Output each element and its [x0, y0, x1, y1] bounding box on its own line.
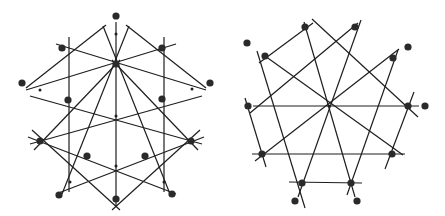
marked-point — [158, 95, 165, 102]
marked-point — [389, 54, 396, 61]
intersection-point — [115, 33, 118, 36]
line-segment — [255, 49, 399, 161]
figure-left — [18, 12, 213, 210]
marked-point — [243, 39, 250, 46]
marked-point — [168, 190, 175, 197]
marked-point — [347, 179, 354, 186]
marked-point — [83, 152, 90, 159]
marked-point — [258, 150, 265, 157]
marked-point — [64, 96, 71, 103]
marked-point — [261, 52, 268, 59]
figure-right — [243, 19, 428, 208]
intersection-point — [115, 115, 118, 118]
line-segment — [112, 60, 198, 150]
diagram-canvas — [0, 0, 445, 216]
marked-point — [351, 23, 358, 30]
marked-point — [404, 102, 411, 109]
marked-point — [141, 152, 148, 159]
line-segment — [34, 60, 120, 150]
marked-point — [187, 137, 194, 144]
line-segment — [56, 44, 206, 90]
marked-point — [421, 102, 428, 109]
marked-point — [112, 60, 119, 67]
marked-point — [158, 44, 165, 51]
line-segment — [250, 23, 358, 113]
marked-point — [388, 150, 395, 157]
line-segment — [56, 137, 204, 194]
intersection-point — [191, 88, 194, 91]
marked-point — [206, 79, 213, 86]
line-segment — [26, 25, 106, 88]
marked-point — [55, 191, 62, 198]
line-segment — [257, 51, 305, 208]
line-segment — [347, 50, 398, 195]
marked-point — [112, 195, 119, 202]
intersection-point — [69, 181, 72, 184]
marked-point — [244, 102, 251, 109]
marked-point — [58, 44, 65, 51]
marked-point — [18, 79, 25, 86]
line-segment — [32, 130, 120, 210]
marked-point — [291, 197, 298, 204]
intersection-point — [39, 89, 42, 92]
marked-point — [36, 137, 43, 144]
marked-point — [112, 12, 119, 19]
line-segment — [26, 44, 176, 90]
line-segment — [112, 130, 200, 210]
intersection-point — [328, 105, 331, 108]
marked-point — [301, 23, 308, 30]
marked-point — [353, 197, 360, 204]
line-arrangement-diagram — [0, 0, 445, 216]
line-segment — [126, 25, 206, 88]
intersection-point — [163, 181, 166, 184]
marked-point — [404, 43, 411, 50]
line-segment — [28, 137, 176, 194]
intersection-point — [115, 165, 118, 168]
marked-point — [298, 179, 305, 186]
